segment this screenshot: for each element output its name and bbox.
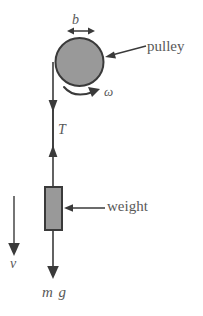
physics-diagram: b ω pulley T weight v m g (0, 0, 203, 316)
label-pulley: pulley (147, 39, 185, 54)
label-diameter-b: b (72, 13, 79, 27)
gravity-arrow (47, 266, 59, 279)
velocity-arrow (8, 196, 20, 256)
weight-leader-line (64, 204, 105, 212)
label-angular-velocity-omega: ω (104, 85, 113, 98)
label-gravity-force-mg: m g (42, 285, 67, 300)
weight-block (45, 187, 62, 230)
pulley-disc (56, 38, 104, 86)
label-velocity-v: v (10, 257, 16, 271)
tension-double-arrow (49, 100, 58, 157)
pulley-leader-line (105, 46, 146, 59)
dimension-arrow-b (67, 28, 95, 35)
label-weight: weight (107, 199, 148, 214)
label-tension-t: T (58, 123, 66, 137)
rotation-curved-arrow (64, 87, 100, 97)
